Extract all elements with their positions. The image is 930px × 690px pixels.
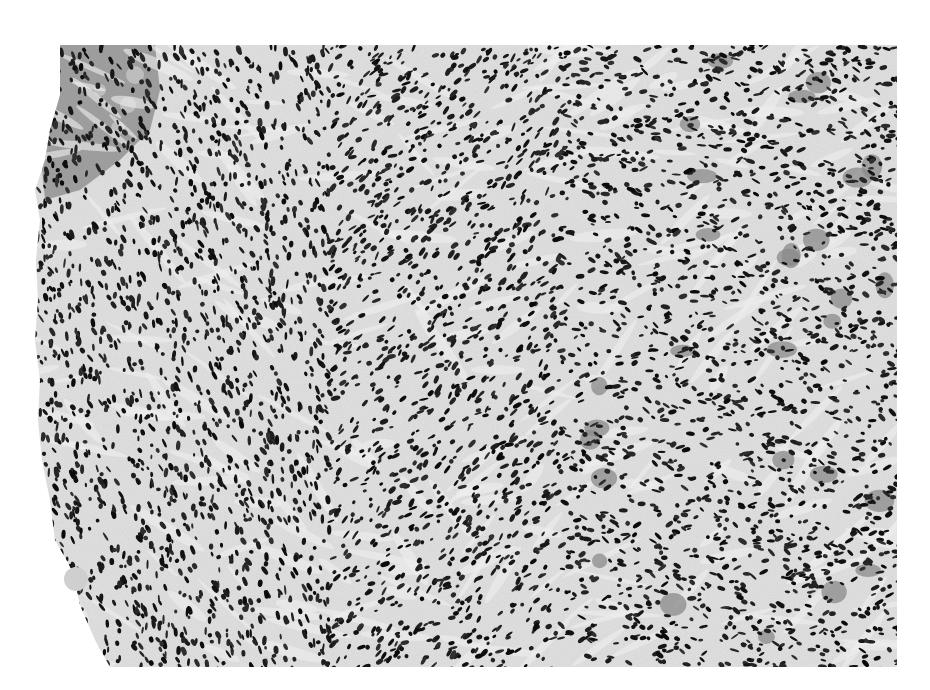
detached-cell (64, 567, 88, 591)
micrograph (0, 0, 930, 690)
tissue-section (0, 0, 930, 690)
